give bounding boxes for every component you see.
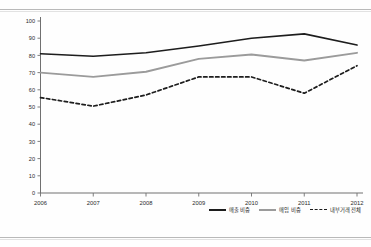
y-tick-label: 30 xyxy=(29,139,35,145)
chart-page: 0102030405060708090100 20062007200820092… xyxy=(0,0,371,247)
legend-item-internal-total[interactable]: 내부거래 전체 xyxy=(310,203,361,217)
legend-label-purchase-share: 매입 비중 xyxy=(279,207,300,213)
bottom-divider-rule xyxy=(0,237,371,238)
y-axis: 0102030405060708090100 xyxy=(26,17,41,196)
y-tick-label: 60 xyxy=(29,87,35,93)
series-line-2 xyxy=(41,66,358,106)
legend-label-internal-total: 내부거래 전체 xyxy=(330,207,361,213)
chart-plot-svg: 0102030405060708090100 20062007200820092… xyxy=(0,13,371,235)
y-tick-label: 50 xyxy=(29,104,35,110)
top-divider-rule-faint xyxy=(0,11,371,12)
data-series-group xyxy=(41,34,358,106)
bottom-divider-rule-faint xyxy=(0,239,371,240)
y-tick-label: 80 xyxy=(29,53,35,59)
y-tick-label: 40 xyxy=(29,121,35,127)
legend-swatch-solid-gray-icon xyxy=(259,207,276,213)
y-tick-label: 90 xyxy=(29,35,35,41)
legend-item-purchase-share[interactable]: 매입 비중 xyxy=(259,203,300,217)
y-tick-label: 10 xyxy=(29,173,35,179)
y-tick-label: 100 xyxy=(26,18,35,24)
series-line-0 xyxy=(41,34,358,56)
y-tick-label: 70 xyxy=(29,70,35,76)
chart-legend: 매출 비중 매입 비중 내부거래 전체 xyxy=(209,203,361,217)
y-tick-label: 0 xyxy=(32,190,35,196)
top-divider-rule xyxy=(0,9,371,10)
x-tick-label: 2008 xyxy=(140,200,153,206)
legend-item-sales-share[interactable]: 매출 비중 xyxy=(209,203,250,217)
legend-label-sales-share: 매출 비중 xyxy=(229,207,250,213)
legend-swatch-solid-black-icon xyxy=(209,207,226,213)
x-tick-label: 2007 xyxy=(87,200,100,206)
legend-swatch-dashed-icon xyxy=(310,207,327,213)
x-tick-label: 2006 xyxy=(34,200,47,206)
x-tick-label: 2009 xyxy=(192,200,205,206)
line-chart: 0102030405060708090100 20062007200820092… xyxy=(0,13,371,235)
y-tick-label: 20 xyxy=(29,156,35,162)
